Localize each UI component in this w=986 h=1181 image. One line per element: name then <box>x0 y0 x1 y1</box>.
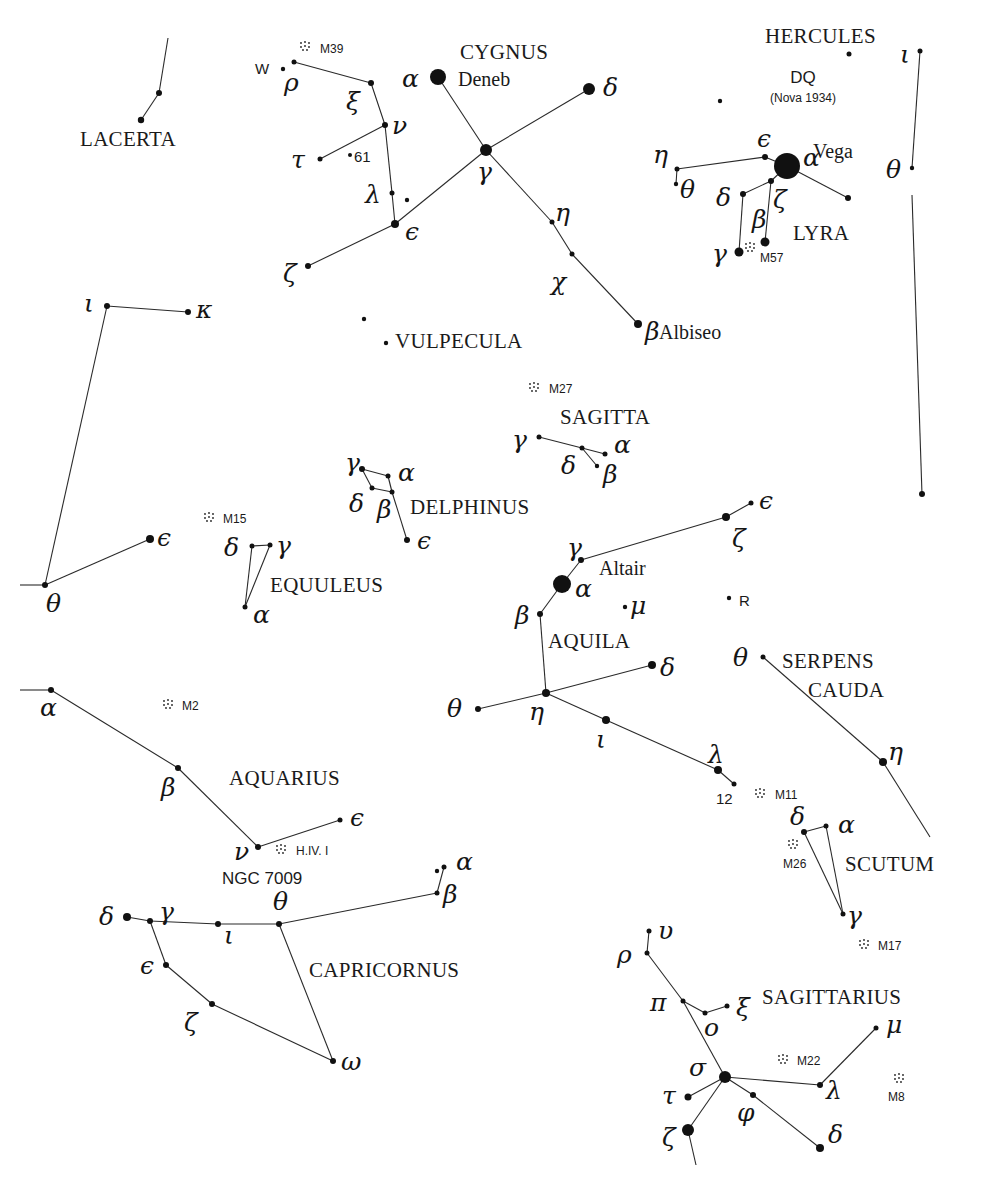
deep-sky-label: M15 <box>223 512 247 526</box>
deep-sky-cluster-icon <box>755 788 765 798</box>
deep-sky-cluster-icon <box>788 839 798 849</box>
constellation-line <box>912 51 920 168</box>
greek-label: τ <box>662 1081 677 1110</box>
star-cyg_delta <box>583 83 595 95</box>
constellation-line <box>883 762 930 837</box>
star-cyg_chi <box>570 252 575 257</box>
greek-label: γ <box>712 239 727 268</box>
star-sge_beta <box>595 464 599 468</box>
greek-label: ι <box>900 40 910 69</box>
star-aqr_beta <box>175 765 181 771</box>
deep-sky-label: M39 <box>320 42 344 56</box>
constellation-line <box>739 194 743 252</box>
greek-label: ω <box>341 1047 361 1076</box>
constellation-line <box>743 181 771 194</box>
labels: ρξντλϵζαγδηχβιθαϵηθζδγβικϵθγδαβγαδβϵδγαϵ… <box>40 24 934 1152</box>
constellation-name: AQUILA <box>548 629 631 653</box>
greek-label: δ <box>561 451 576 480</box>
star-cap_omega <box>330 1058 336 1064</box>
star-cap_alpha <box>442 865 447 870</box>
deep-sky-cluster-icon <box>204 512 214 522</box>
star-aql_eps <box>749 501 754 506</box>
greek-label: ϵ <box>140 951 154 980</box>
constellation-line <box>582 448 597 466</box>
star-sgr_xi <box>725 1004 730 1009</box>
greek-label: ϵ <box>417 526 431 555</box>
greek-label: ι <box>224 921 234 950</box>
constellation-line <box>372 488 392 492</box>
star-del_eps <box>404 537 410 543</box>
star-cap_eps <box>163 962 169 968</box>
greek-label: δ <box>224 533 239 562</box>
greek-label: π <box>649 988 667 1017</box>
constellation-name: CAUDA <box>808 678 885 702</box>
constellation-line <box>688 1077 725 1130</box>
constellation-line <box>107 306 188 312</box>
constellation-line <box>606 720 718 770</box>
star-equ_delta <box>250 544 255 549</box>
star-sgr_delta <box>816 1144 824 1152</box>
star-lyr_beta <box>761 238 770 247</box>
star-peg_kappa <box>185 309 191 315</box>
star-cap_gamma <box>147 918 153 924</box>
star-cap_delta <box>123 913 131 921</box>
star-cap_iota <box>215 921 221 927</box>
star-cyg_lambda <box>390 191 395 196</box>
greek-label: β <box>442 880 457 909</box>
greek-label: θ <box>447 694 462 723</box>
constellation-line <box>258 820 340 847</box>
star-sgr_lambda <box>817 1082 823 1088</box>
constellation-line <box>279 893 437 924</box>
star-peg_theta <box>42 582 48 588</box>
object-label: 12 <box>716 790 733 807</box>
deep-sky-label: M57 <box>760 251 784 265</box>
star-aql_mu <box>623 605 627 609</box>
star-lac2 <box>138 117 144 123</box>
greek-label: μ <box>886 1010 902 1039</box>
star-cyg_beta <box>634 320 642 328</box>
star-sgr_sigma <box>719 1071 731 1083</box>
constellation-line <box>294 62 371 83</box>
star-cyg_xi <box>368 80 374 86</box>
constellation-line <box>804 832 843 914</box>
greek-label: σ <box>689 1053 707 1082</box>
star-proper-name: Albiseo <box>659 321 721 343</box>
greek-label: α <box>40 693 57 722</box>
greek-label: γ <box>847 901 862 930</box>
greek-label: ζ <box>184 1008 199 1037</box>
constellation-name: CYGNUS <box>460 40 548 64</box>
star-proper-name: Vega <box>813 140 853 163</box>
constellation-line <box>392 193 395 224</box>
greek-label: γ <box>159 897 174 926</box>
greek-label: α <box>614 430 631 459</box>
greek-label: γ <box>512 425 527 454</box>
constellation-name: SAGITTARIUS <box>762 985 901 1009</box>
greek-label: α <box>402 64 419 93</box>
greek-label: λ <box>825 1076 842 1105</box>
greek-label: γ <box>276 531 291 560</box>
constellation-line <box>546 693 606 720</box>
greek-label: α <box>838 810 855 839</box>
star-vul2 <box>384 341 388 345</box>
deep-sky-cluster-icon <box>529 382 539 392</box>
greek-label: ζ <box>732 524 747 553</box>
object-label: (Nova 1934) <box>770 91 836 105</box>
star-sgr_mu <box>874 1026 879 1031</box>
constellation-line <box>371 83 385 125</box>
star-peg_eps <box>146 535 154 543</box>
star-lyr_zeta <box>768 178 774 184</box>
star-sgr_zeta <box>682 1124 694 1136</box>
greek-label: γ <box>567 533 582 562</box>
star-equ_gamma <box>268 543 273 548</box>
object-label: W <box>255 60 270 77</box>
star-chart: M39M57M27M15M2H.IV. IM11M26M17M22M8 ρξντ… <box>0 0 986 1181</box>
constellation-line <box>51 690 178 768</box>
deep-sky-label: H.IV. I <box>296 844 328 858</box>
greek-label: α <box>398 458 415 487</box>
deep-sky-label: M8 <box>888 1090 905 1104</box>
constellation-name: LACERTA <box>80 127 177 151</box>
star-cyg_61 <box>348 153 352 157</box>
constellation-line <box>486 150 552 222</box>
constellation-line <box>308 224 395 266</box>
greek-label: β <box>514 601 529 630</box>
